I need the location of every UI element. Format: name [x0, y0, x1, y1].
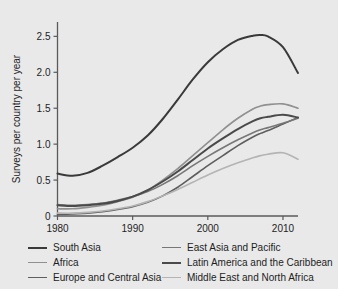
- line-chart: 00.51.01.52.02.5 1980199020002010 Survey…: [0, 0, 338, 240]
- legend-item-label: Europe and Central Asia: [53, 273, 161, 283]
- legend-line-swatch: [162, 262, 181, 264]
- legend-column-right: East Asia and PacificLatin America and t…: [162, 240, 333, 285]
- series-line-east-asia-and-pacific: [58, 118, 299, 205]
- legend-line-swatch: [28, 277, 47, 278]
- y-axis-ticks: 00.51.01.52.02.5: [37, 31, 58, 222]
- y-tick-label: 2.5: [37, 31, 51, 42]
- data-series-group: [58, 35, 299, 215]
- y-tick-label: 2.0: [37, 67, 51, 78]
- legend-item[interactable]: Europe and Central Asia: [28, 270, 161, 285]
- x-tick-label: 2000: [197, 223, 220, 234]
- legend-item-label: South Asia: [53, 243, 101, 253]
- y-axis-title-text: Surveys per country per year: [11, 54, 22, 183]
- x-tick-label: 1990: [122, 223, 145, 234]
- x-tick-label: 2010: [272, 223, 295, 234]
- legend-column-left: South AsiaAfricaEurope and Central Asia: [28, 240, 161, 285]
- figure-panel: 00.51.01.52.02.5 1980199020002010 Survey…: [0, 0, 338, 289]
- legend-item-label: Latin America and the Caribbean: [187, 258, 333, 268]
- chart-plot-area: 00.51.01.52.02.5 1980199020002010 Survey…: [0, 0, 338, 240]
- series-line-africa: [58, 104, 299, 209]
- chart-legend: South AsiaAfricaEurope and Central Asia …: [0, 240, 338, 289]
- x-tick-label: 1980: [46, 223, 69, 234]
- legend-item[interactable]: Latin America and the Caribbean: [162, 255, 333, 270]
- legend-item-label: East Asia and Pacific: [187, 243, 280, 253]
- y-tick-label: 1.5: [37, 103, 51, 114]
- series-line-latin-america-and-the-caribbean: [58, 115, 299, 206]
- legend-item[interactable]: Middle East and North Africa: [162, 270, 333, 285]
- legend-item[interactable]: East Asia and Pacific: [162, 240, 333, 255]
- legend-item-label: Middle East and North Africa: [187, 273, 314, 283]
- legend-item-label: Africa: [53, 258, 79, 268]
- legend-line-swatch: [28, 262, 47, 263]
- y-tick-label: 0.5: [37, 175, 51, 186]
- series-line-europe-and-central-asia: [58, 118, 299, 215]
- y-tick-label: 1.0: [37, 139, 51, 150]
- legend-item[interactable]: South Asia: [28, 240, 161, 255]
- legend-line-swatch: [162, 247, 181, 248]
- legend-line-swatch: [28, 247, 47, 249]
- legend-line-swatch: [162, 277, 181, 278]
- x-axis-ticks: 1980199020002010: [46, 216, 294, 234]
- y-axis-title: Surveys per country per year: [11, 54, 22, 183]
- y-tick-label: 0: [45, 211, 51, 222]
- legend-item[interactable]: Africa: [28, 255, 161, 270]
